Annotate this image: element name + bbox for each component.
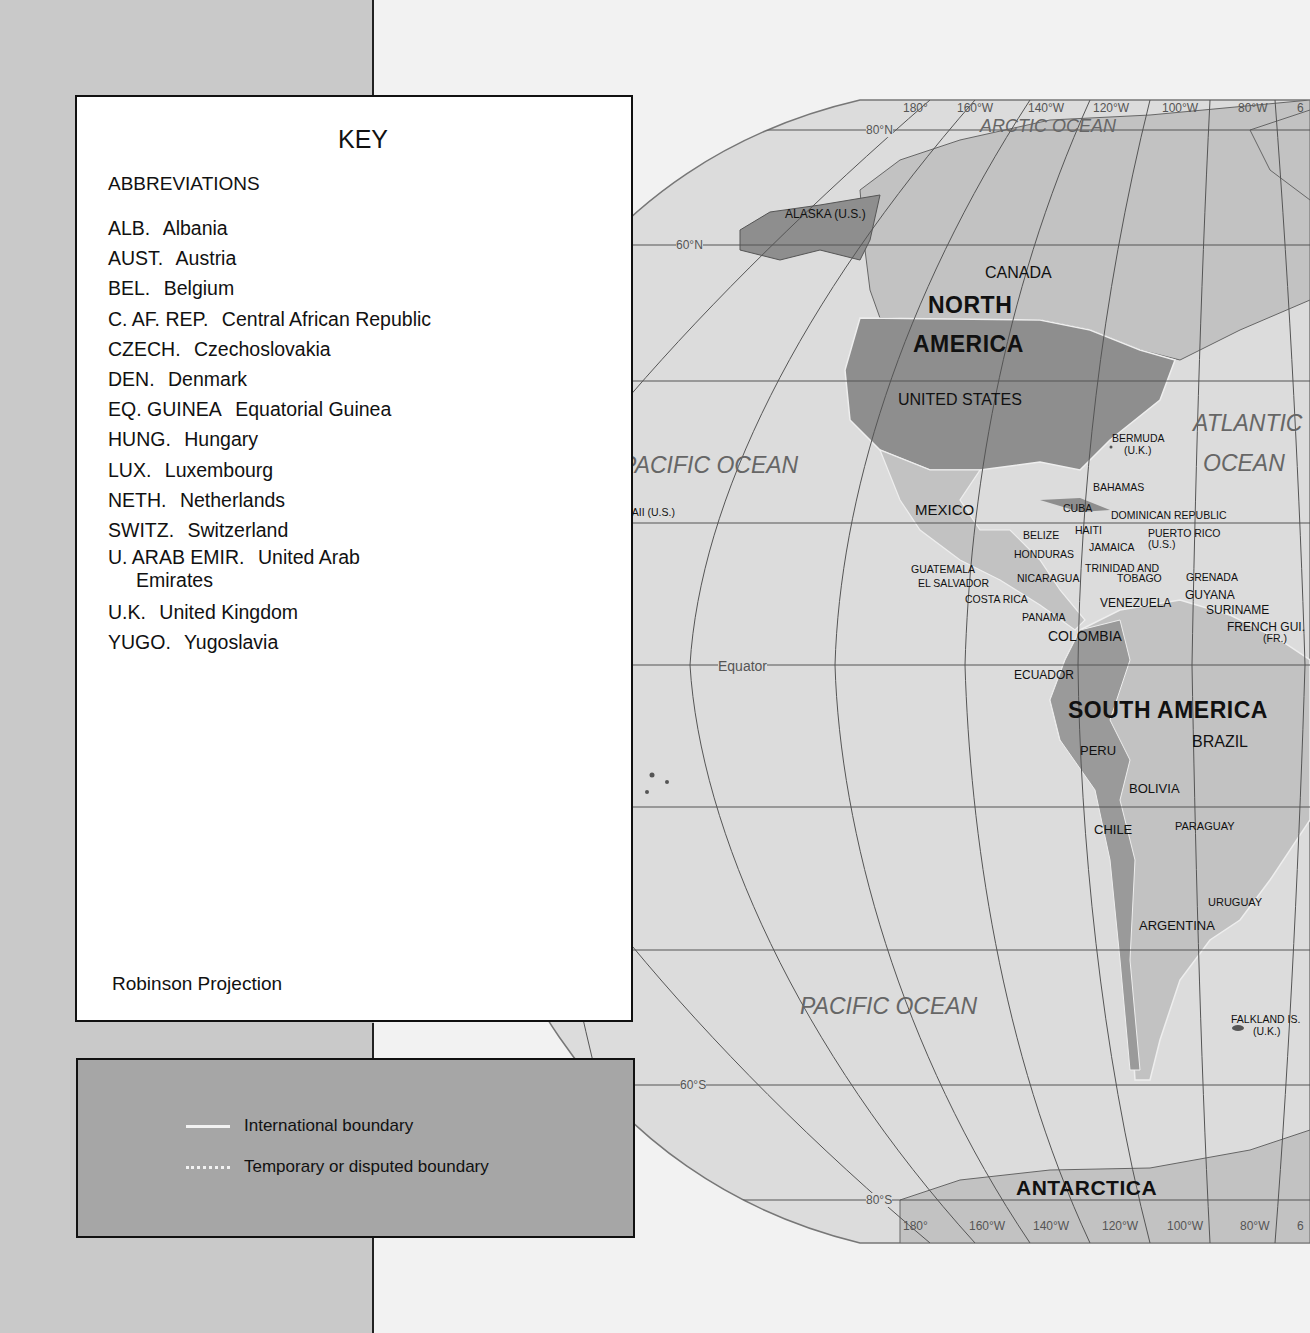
lon-label-bottom: 180°	[903, 1219, 928, 1233]
abbreviation-item: U. ARAB EMIR. United ArabEmirates	[108, 545, 431, 591]
lon-label-top: 140°W	[1028, 101, 1064, 115]
country-label: GUYANA	[1185, 588, 1235, 602]
country-label: CUBA	[1063, 502, 1092, 514]
country-label: ARGENTINA	[1139, 918, 1215, 933]
abbreviation-item: HUNG. Hungary	[108, 424, 431, 454]
country-label: COSTA RICA	[965, 593, 1028, 605]
lat-label: 80°N	[866, 123, 893, 137]
country-label: (FR.)	[1263, 632, 1287, 644]
abbreviation-item: C. AF. REP. Central African Republic	[108, 304, 431, 334]
country-label: PARAGUAY	[1175, 820, 1235, 832]
country-label: GRENADA	[1186, 571, 1238, 583]
country-label: ALASKA (U.S.)	[785, 207, 866, 221]
lat-label: 60°S	[680, 1078, 706, 1092]
country-label: BERMUDA	[1112, 432, 1165, 444]
country-label: FALKLAND IS.	[1231, 1013, 1300, 1025]
country-label: HAITI	[1075, 524, 1102, 536]
country-label: JAMAICA	[1089, 541, 1135, 553]
lon-label-bottom: 160°W	[969, 1219, 1005, 1233]
country-label: DOMINICAN REPUBLIC	[1111, 509, 1227, 521]
abbreviation-item: LUX. Luxembourg	[108, 455, 431, 485]
legend-item-disputed-boundary: Temporary or disputed boundary	[186, 1157, 489, 1177]
abbreviations-heading: ABBREVIATIONS	[108, 173, 260, 195]
legend-item-international-boundary: International boundary	[186, 1116, 413, 1136]
country-label: CANADA	[985, 264, 1052, 282]
lon-label-top: 160°W	[957, 101, 993, 115]
projection-label: Robinson Projection	[112, 973, 282, 995]
abbreviation-item: BEL. Belgium	[108, 273, 431, 303]
country-label: ECUADOR	[1014, 668, 1074, 682]
ocean-label-pacific-south: PACIFIC OCEAN	[800, 993, 977, 1020]
map-key-panel: KEY ABBREVIATIONS ALB. Albania AUST. Aus…	[75, 95, 633, 1022]
continent-label-north-america: AMERICA	[913, 331, 1024, 358]
abbreviation-item: YUGO. Yugoslavia	[108, 627, 431, 657]
lon-label-bottom: 120°W	[1102, 1219, 1138, 1233]
continent-label-antarctica: ANTARCTICA	[1016, 1176, 1157, 1200]
continent-label-north-america: NORTH	[928, 292, 1012, 319]
country-label: PERU	[1080, 743, 1116, 758]
abbreviation-item: NETH. Netherlands	[108, 485, 431, 515]
country-label: GUATEMALA	[911, 563, 975, 575]
country-label: EL SALVADOR	[918, 577, 989, 589]
ocean-label-atlantic: OCEAN	[1203, 450, 1285, 477]
lon-label-bottom: 100°W	[1167, 1219, 1203, 1233]
key-title: KEY	[77, 125, 631, 154]
continent-label-south-america: SOUTH AMERICA	[1068, 697, 1268, 724]
solid-line-icon	[186, 1125, 230, 1128]
ocean-label-atlantic: ATLANTIC	[1193, 410, 1302, 437]
equator-label: Equator	[718, 658, 767, 674]
country-label: SURINAME	[1206, 603, 1269, 617]
dotted-line-icon	[186, 1166, 230, 1169]
abbreviation-item: DEN. Denmark	[108, 364, 431, 394]
lon-label-top: 6	[1297, 101, 1304, 115]
lon-label-top: 80°W	[1238, 101, 1267, 115]
country-label: BELIZE	[1023, 529, 1059, 541]
country-label: URUGUAY	[1208, 896, 1262, 908]
abbreviation-item: AUST. Austria	[108, 243, 431, 273]
lon-label-bottom: 140°W	[1033, 1219, 1069, 1233]
abbreviation-item: U.K. United Kingdom	[108, 597, 431, 627]
lon-label-top: 100°W	[1162, 101, 1198, 115]
country-label: (U.K.)	[1124, 444, 1151, 456]
country-label: TOBAGO	[1117, 572, 1162, 584]
lon-label-bottom: 80°W	[1240, 1219, 1269, 1233]
country-label: NICARAGUA	[1017, 572, 1079, 584]
country-label: PANAMA	[1022, 611, 1066, 623]
country-label: COLOMBIA	[1048, 628, 1122, 644]
abbreviation-item: ALB. Albania	[108, 213, 431, 243]
abbreviation-item: CZECH. Czechoslovakia	[108, 334, 431, 364]
country-label: CHILE	[1094, 822, 1132, 837]
ocean-label-arctic: ARCTIC OCEAN	[980, 116, 1116, 137]
country-label: (U.S.)	[1148, 538, 1175, 550]
abbreviation-item: EQ. GUINEA Equatorial Guinea	[108, 394, 431, 424]
lon-label-bottom: 6	[1297, 1219, 1304, 1233]
boundary-legend-panel: International boundary Temporary or disp…	[76, 1058, 635, 1238]
abbreviations-list: ALB. Albania AUST. Austria BEL. Belgium …	[108, 213, 431, 658]
country-label: BAHAMAS	[1093, 481, 1144, 493]
country-label: UNITED STATES	[898, 391, 1022, 409]
country-label: (U.K.)	[1253, 1025, 1280, 1037]
abbreviation-item: SWITZ. Switzerland	[108, 515, 431, 545]
lon-label-top: 180°	[903, 101, 928, 115]
country-label: BOLIVIA	[1129, 781, 1180, 796]
country-label: HONDURAS	[1014, 548, 1074, 560]
lat-label: 60°N	[676, 238, 703, 252]
country-label: BRAZIL	[1192, 733, 1248, 751]
country-label: VENEZUELA	[1100, 596, 1171, 610]
lat-label: 80°S	[866, 1193, 892, 1207]
ocean-label-pacific-north: PACIFIC OCEAN	[621, 452, 798, 479]
country-label: MEXICO	[915, 501, 974, 518]
lon-label-top: 120°W	[1093, 101, 1129, 115]
